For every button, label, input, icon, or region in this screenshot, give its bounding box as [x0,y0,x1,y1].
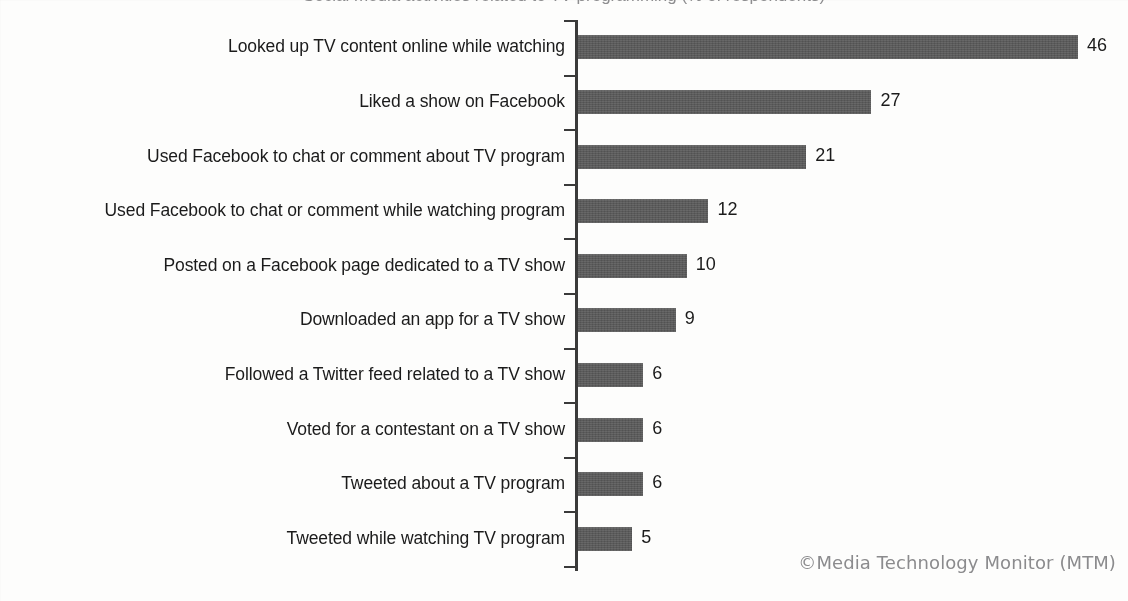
attribution-credit: ©Media Technology Monitor (MTM) [798,552,1116,573]
bar-value-label: 27 [880,90,900,111]
category-label: Liked a show on Facebook [359,91,565,112]
axis-tick [564,348,576,350]
category-label: Tweeted about a TV program [341,473,565,494]
category-label: Used Facebook to chat or comment about T… [147,146,565,167]
category-label: Used Facebook to chat or comment while w… [105,200,565,221]
bar [578,199,708,223]
bar-chart-plot-area: Looked up TV content online while watchi… [0,0,1128,601]
bar-value-label: 6 [652,418,662,439]
axis-tick [564,457,576,459]
bar-value-label: 6 [652,472,662,493]
axis-tick [564,293,576,295]
axis-tick [564,402,576,404]
bar-value-label: 5 [641,527,651,548]
bar [578,308,676,332]
axis-tick [564,129,576,131]
bar [578,472,643,496]
bar [578,363,643,387]
bar [578,254,687,278]
category-label: Tweeted while watching TV program [287,528,565,549]
axis-tick [564,20,576,22]
bar [578,90,871,114]
bar [578,35,1078,59]
axis-tick-end [564,566,576,568]
bar-value-label: 10 [696,254,716,275]
category-label: Looked up TV content online while watchi… [228,36,565,57]
axis-tick [564,238,576,240]
bar-value-label: 9 [685,308,695,329]
bar [578,418,643,442]
category-label: Downloaded an app for a TV show [300,309,565,330]
bar [578,527,632,551]
chart-container: Social media activities related to TV pr… [0,0,1128,601]
axis-tick [564,511,576,513]
category-label: Followed a Twitter feed related to a TV … [225,364,565,385]
bar-value-label: 6 [652,363,662,384]
axis-tick [564,75,576,77]
bar-value-label: 21 [815,145,835,166]
axis-tick [564,184,576,186]
category-label: Posted on a Facebook page dedicated to a… [163,255,565,276]
bar [578,145,806,169]
bar-value-label: 12 [717,199,737,220]
bar-value-label: 46 [1087,35,1107,56]
category-label: Voted for a contestant on a TV show [287,419,565,440]
